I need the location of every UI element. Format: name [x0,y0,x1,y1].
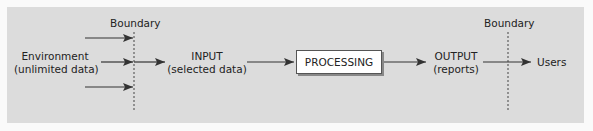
users-label: Users [537,56,566,69]
output-subtitle: (reports) [428,63,484,76]
environment-label: Environment (unlimited data) [14,50,96,76]
boundary-label-left: Boundary [110,17,161,30]
environment-subtitle: (unlimited data) [14,63,96,76]
input-subtitle: (selected data) [166,63,248,76]
output-label: OUTPUT (reports) [428,50,484,76]
output-title: OUTPUT [428,50,484,63]
environment-title: Environment [14,50,96,63]
processing-box: PROCESSING [296,50,382,74]
input-label: INPUT (selected data) [166,50,248,76]
input-title: INPUT [166,50,248,63]
boundary-label-right: Boundary [484,17,535,30]
